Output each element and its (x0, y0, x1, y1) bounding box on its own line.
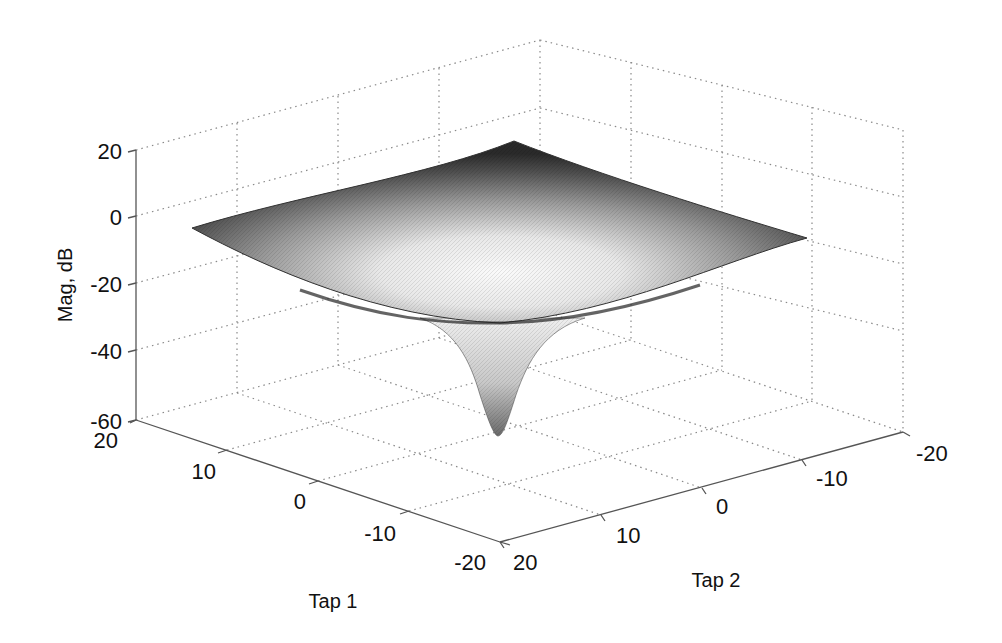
svg-text:20: 20 (98, 139, 122, 164)
svg-text:0: 0 (294, 489, 306, 514)
surface-plot: 20 0 -20 -40 -60 20 10 0 -10 -20 20 10 0… (0, 0, 1002, 643)
svg-text:-20: -20 (90, 272, 122, 297)
svg-text:-10: -10 (816, 466, 848, 491)
svg-text:-40: -40 (90, 339, 122, 364)
z-axis-label: Mag, dB (54, 248, 76, 322)
svg-text:20: 20 (94, 428, 118, 453)
svg-text:10: 10 (192, 459, 216, 484)
svg-text:20: 20 (513, 550, 537, 575)
svg-text:-10: -10 (364, 521, 396, 546)
tap1-tick-labels: 20 10 0 -10 -20 (94, 428, 486, 575)
svg-text:-20: -20 (916, 441, 948, 466)
svg-text:0: 0 (110, 205, 122, 230)
svg-text:0: 0 (716, 494, 728, 519)
z-tick-labels: 20 0 -20 -40 -60 (90, 139, 122, 434)
tap2-tick-labels: 20 10 0 -10 -20 (513, 441, 948, 575)
tap1-axis-label: Tap 1 (309, 590, 358, 612)
svg-text:-20: -20 (454, 550, 486, 575)
tap2-axis-label: Tap 2 (692, 569, 741, 591)
svg-text:10: 10 (616, 523, 640, 548)
